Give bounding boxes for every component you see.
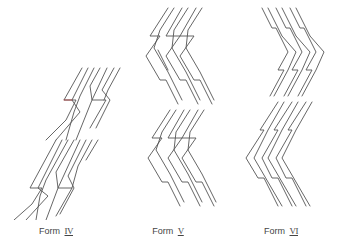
form-v-label-prefix: Form — [152, 226, 173, 236]
form-vi-upper-group — [262, 8, 324, 96]
form-vi-label-prefix: Form — [264, 226, 285, 236]
form-vi-label-numeral: VI — [290, 226, 299, 236]
form-vi-diagram — [0, 0, 341, 220]
form-iv-label-numeral: IV — [65, 226, 74, 236]
form-v-label-numeral: V — [178, 226, 184, 236]
form-vi-label: Form VI — [264, 226, 298, 236]
form-vi-lower-group — [246, 102, 312, 206]
form-iv-label-prefix: Form — [39, 226, 60, 236]
form-v-label: Form V — [152, 226, 184, 236]
form-iv-label: Form IV — [39, 226, 73, 236]
